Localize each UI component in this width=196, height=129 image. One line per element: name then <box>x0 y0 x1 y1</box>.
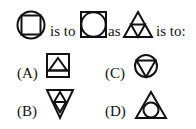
square-with-inscribed-circle-icon <box>80 11 107 38</box>
option-d[interactable]: (D) <box>102 87 170 123</box>
question-text-is-to-colon: is to: <box>156 24 186 39</box>
circle-with-inscribed-square-icon <box>16 10 46 40</box>
triangle-with-inscribed-circle-icon <box>135 91 167 119</box>
option-d-label: (D) <box>105 104 126 119</box>
inverted-triangle-with-inner-shapes-icon <box>46 89 74 119</box>
circle-with-inverted-triangle-icon <box>134 54 158 78</box>
option-c[interactable]: (C) <box>102 50 162 82</box>
option-a[interactable]: (A) <box>14 50 74 82</box>
option-c-label: (C) <box>105 66 125 81</box>
subdivided-triangle-icon <box>123 11 153 38</box>
option-a-label: (A) <box>17 66 38 81</box>
option-b-label: (B) <box>17 104 37 119</box>
option-b[interactable]: (B) <box>14 87 78 123</box>
question-text-as: as <box>108 24 121 39</box>
square-with-triangle-icon <box>46 53 70 78</box>
question-text-is-to: is to <box>50 24 75 39</box>
